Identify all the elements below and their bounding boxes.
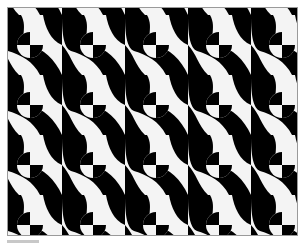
tessellation-image [7,7,298,236]
caption-bar [7,240,39,243]
tessellation-pattern [8,8,298,236]
